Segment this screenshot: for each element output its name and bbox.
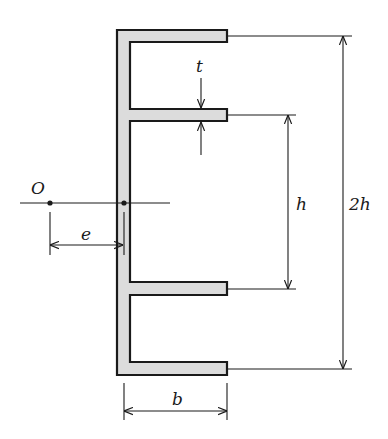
web-center-point	[121, 200, 126, 205]
label-O: O	[31, 178, 45, 198]
label-b: b	[172, 389, 183, 409]
label-e: e	[81, 224, 91, 244]
e-section-diagram: O e t h 2h b	[0, 0, 388, 439]
label-h: h	[296, 194, 307, 214]
label-2h: 2h	[348, 194, 371, 214]
label-t: t	[196, 56, 203, 76]
shear-center-point	[47, 200, 52, 205]
